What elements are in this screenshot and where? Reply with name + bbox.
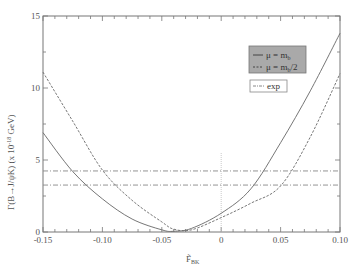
y-tick-label: 0	[36, 227, 41, 237]
x-tick-label: 0.10	[332, 235, 348, 245]
legend-item-mb: μ = mb	[266, 50, 290, 61]
y-tick-label: 10	[31, 83, 41, 93]
legend-item-mb-half: μ = mb/2	[266, 62, 297, 73]
x-axis-title: F̃BK	[186, 254, 200, 265]
x-tick-label: -0.05	[152, 235, 171, 245]
y-axis-title: Γ(B→J/ψK) (x 10-18 GeV)	[6, 114, 16, 210]
x-tick-label: 0.05	[273, 235, 289, 245]
x-tick-label: 0	[219, 235, 224, 245]
y-tick-label: 15	[31, 11, 41, 21]
curve-mu-mb-half	[43, 72, 340, 231]
chart: -0.15-0.10-0.0500.050.10051015 μ = mb μ …	[0, 0, 362, 274]
legend: μ = mb μ = mb/2 exp	[249, 46, 306, 92]
x-tick-label: -0.10	[93, 235, 112, 245]
legend-item-exp: exp	[267, 81, 280, 91]
y-tick-label: 5	[36, 155, 41, 165]
